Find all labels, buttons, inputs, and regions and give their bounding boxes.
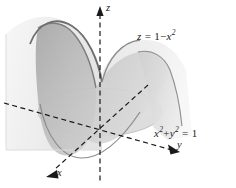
surface-eq-equals: = (145, 30, 152, 42)
surface-eq-lhs: z (137, 30, 142, 42)
math-figure-3d-solid: z = 1−x2 x2+y2 = 1 z y x (0, 0, 236, 188)
cylinder-eq-exp2: 2 (175, 125, 179, 134)
cylinder-equation-label: x2+y2 = 1 (154, 128, 197, 139)
surface-eq-exponent: 2 (172, 28, 176, 37)
axis-z-arrowhead (96, 6, 103, 16)
surface-equation-label: z = 1−x2 (137, 31, 176, 42)
axis-x-label: x (57, 168, 62, 179)
cylinder-eq-value: 1 (192, 127, 198, 139)
cylinder-eq-equals: = (182, 127, 189, 139)
axis-z-label: z (106, 3, 110, 14)
axis-y-label: y (177, 140, 182, 151)
figure-canvas (0, 0, 236, 188)
